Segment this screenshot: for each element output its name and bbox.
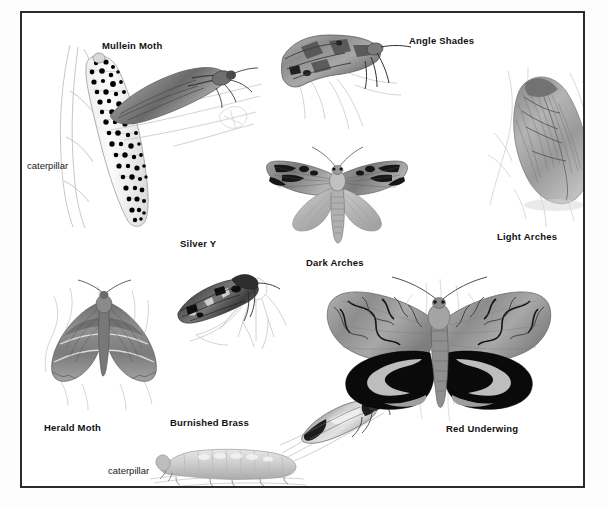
label-caterpillar-left: caterpillar	[27, 160, 68, 171]
illustration-plate: caterpillar	[20, 11, 585, 488]
label-burnished-brass: Burnished Brass	[170, 417, 249, 428]
label-caterpillar-bottom: caterpillar	[108, 465, 149, 476]
figure-herald-moth-adult	[36, 278, 171, 413]
figure-dark-arches-adult	[260, 145, 410, 250]
label-mullein-moth: Mullein Moth	[102, 40, 162, 51]
figure-light-arches-adult	[484, 63, 585, 233]
figure-silver-y-adult	[170, 261, 290, 356]
figure-burnished-brass-caterpillar	[148, 439, 308, 488]
label-light-arches: Light Arches	[497, 231, 557, 242]
label-red-underwing: Red Underwing	[446, 423, 518, 434]
label-dark-arches: Dark Arches	[306, 257, 364, 268]
label-angle-shades: Angle Shades	[409, 35, 474, 46]
figure-mullein-moth-adult	[104, 58, 264, 153]
figure-angle-shades-adult	[277, 23, 422, 133]
label-silver-y: Silver Y	[180, 238, 216, 249]
label-herald-moth: Herald Moth	[44, 422, 101, 433]
figure-red-underwing-adult	[322, 275, 557, 425]
